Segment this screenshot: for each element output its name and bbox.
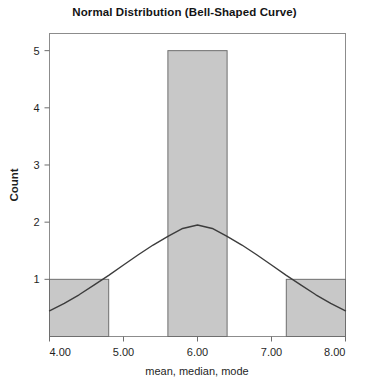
- chart-plot: 4.005.006.007.008.00 12345 mean, median,…: [0, 0, 369, 388]
- y-tick-label: 4: [33, 102, 39, 114]
- y-tick-label: 5: [33, 45, 39, 57]
- y-axis-ticks: 12345: [33, 45, 49, 286]
- histogram-bar: [168, 51, 227, 337]
- y-axis-label: Count: [8, 168, 20, 201]
- x-axis-label: mean, median, mode: [145, 365, 248, 377]
- bars-group: [50, 51, 346, 337]
- y-tick-label: 2: [33, 216, 39, 228]
- x-tick-label: 7.00: [261, 346, 282, 358]
- x-tick-label: 6.00: [187, 346, 208, 358]
- y-tick-label: 1: [33, 273, 39, 285]
- x-tick-label: 8.00: [324, 346, 345, 358]
- histogram-bar: [50, 279, 109, 336]
- histogram-bar: [286, 279, 345, 336]
- x-tick-label: 5.00: [113, 346, 134, 358]
- chart-container: Normal Distribution (Bell-Shaped Curve) …: [0, 0, 369, 388]
- x-axis-ticks: 4.005.006.007.008.00: [50, 337, 346, 358]
- y-tick-label: 3: [33, 159, 39, 171]
- x-tick-label: 4.00: [50, 346, 71, 358]
